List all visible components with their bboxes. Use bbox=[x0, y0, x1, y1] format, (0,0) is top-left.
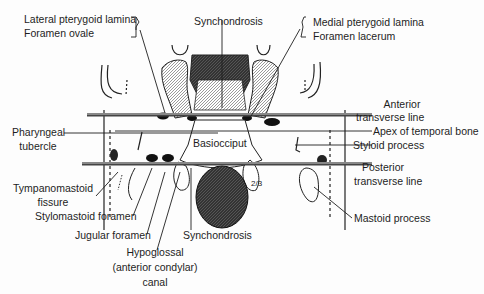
label-posterior-line-1: Posterior bbox=[362, 161, 404, 173]
label-synchondrosis-top: Synchondrosis bbox=[194, 15, 263, 27]
label-mastoid: Mastoid process bbox=[354, 212, 430, 224]
label-hypoglossal-2: (anterior condylar) bbox=[110, 261, 200, 273]
right-pterygoid bbox=[248, 60, 278, 118]
label-synchondrosis-bottom: Synchondrosis bbox=[183, 229, 252, 241]
label-jugular: Jugular foramen bbox=[75, 229, 151, 241]
label-apex-temporal: Apex of temporal bone bbox=[373, 125, 479, 137]
label-tympanomastoid-2: fissure bbox=[10, 196, 96, 208]
label-stylomastoid: Stylomastoid foramen bbox=[35, 210, 137, 222]
label-pharyngeal-2: tubercle bbox=[12, 140, 64, 152]
label-medial-pterygoid: Medial pterygoid lamina bbox=[313, 16, 424, 28]
label-pharyngeal-1: Pharyngeal bbox=[12, 126, 64, 138]
label-posterior-line-2: transverse line bbox=[354, 175, 422, 187]
label-anterior-line-2: transverse line bbox=[356, 111, 424, 123]
label-tympanomastoid-1: Tympanomastoid bbox=[10, 182, 96, 194]
label-foramen-ovale: Foramen ovale bbox=[24, 27, 94, 39]
foramen-magnum bbox=[196, 166, 248, 228]
anatomy-diagram: Lateral pterygoid lamina Foramen ovale S… bbox=[0, 0, 484, 294]
label-hypoglossal-3: canal bbox=[110, 276, 200, 288]
label-styloid: Styloid process bbox=[353, 139, 424, 151]
label-anterior-line-1: Anterior bbox=[372, 98, 432, 110]
label-basiocciput: Basiocciput bbox=[193, 137, 247, 149]
label-lateral-pterygoid: Lateral pterygoid lamina bbox=[24, 13, 136, 25]
fraction-mark: 2/3 bbox=[251, 178, 262, 190]
left-pterygoid bbox=[162, 60, 192, 118]
label-hypoglossal-1: Hypoglossal bbox=[110, 246, 200, 258]
left-ear-outline bbox=[101, 65, 127, 230]
label-foramen-lacerum: Foramen lacerum bbox=[313, 30, 395, 42]
right-ear-outline bbox=[300, 62, 345, 230]
